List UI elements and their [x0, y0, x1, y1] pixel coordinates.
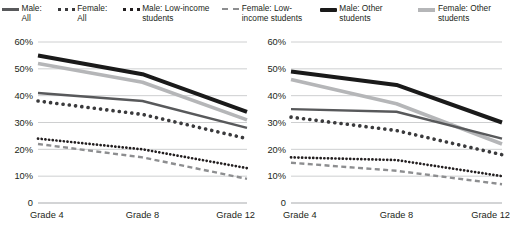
right-chart-svg: 010%20%30%40%50%60%Grade 4Grade 8Grade 1…: [255, 28, 510, 229]
legend-label: Female: Other students: [438, 3, 510, 23]
legend-item-male-low-income: Male: Low-income students: [123, 0, 215, 23]
y-axis-tick-label: 20%: [14, 145, 33, 155]
line-swatch-icon: [123, 5, 140, 15]
line-swatch-icon: [222, 5, 239, 15]
y-axis-tick-label: 40%: [14, 91, 33, 101]
left-line-chart: 010%20%30%40%50%60%Grade 4Grade 8Grade 1…: [0, 28, 255, 229]
y-axis-tick-label: 0: [281, 198, 286, 208]
series-line: [38, 63, 247, 119]
legend-item-male-all: Male: All: [2, 0, 50, 23]
y-axis-tick-label: 10%: [14, 171, 33, 181]
y-axis-tick-label: 50%: [14, 64, 33, 74]
y-axis-tick-label: 10%: [267, 171, 286, 181]
line-swatch-icon: [2, 5, 19, 15]
y-axis-tick-label: 20%: [267, 145, 286, 155]
legend-label: Female: All: [77, 3, 114, 23]
x-axis-tick-label: Grade 8: [126, 210, 160, 220]
legend-label: Male: Other students: [339, 3, 410, 23]
x-axis-tick-label: Grade 8: [380, 210, 414, 220]
legend-item-female-low-income: Female: Low-income students: [222, 0, 314, 23]
x-axis-tick-label: Grade 4: [30, 210, 64, 220]
y-axis-tick-label: 0: [28, 198, 33, 208]
legend-label: Female: Low-income students: [242, 3, 314, 23]
y-axis-tick-label: 30%: [14, 118, 33, 128]
y-axis-tick-label: 30%: [267, 118, 286, 128]
x-axis-tick-label: Grade 12: [216, 210, 255, 220]
series-line: [291, 163, 502, 184]
series-line: [291, 157, 502, 176]
y-axis-tick-label: 60%: [267, 37, 286, 47]
series-line: [291, 72, 502, 123]
legend-item-female-all: Female: All: [58, 0, 115, 23]
series-line: [291, 109, 502, 139]
line-swatch-icon: [58, 5, 75, 15]
x-axis-tick-label: Grade 4: [283, 210, 317, 220]
y-axis-tick-label: 50%: [267, 64, 286, 74]
charts-container: 010%20%30%40%50%60%Grade 4Grade 8Grade 1…: [0, 28, 510, 229]
x-axis-tick-label: Grade 12: [471, 210, 510, 220]
series-line: [38, 139, 247, 169]
legend-item-female-other: Female: Other students: [418, 0, 510, 23]
left-chart-svg: 010%20%30%40%50%60%Grade 4Grade 8Grade 1…: [0, 28, 255, 229]
y-axis-tick-label: 40%: [267, 91, 286, 101]
chart-page: Male: All Female: All Male: Low-income s…: [0, 0, 510, 229]
right-line-chart: 010%20%30%40%50%60%Grade 4Grade 8Grade 1…: [255, 28, 510, 229]
line-swatch-icon: [418, 5, 435, 15]
legend-label: Male: All: [22, 3, 50, 23]
chart-legend: Male: All Female: All Male: Low-income s…: [0, 0, 510, 30]
y-axis-tick-label: 60%: [14, 37, 33, 47]
line-swatch-icon: [320, 5, 337, 15]
legend-label: Male: Low-income students: [142, 3, 214, 23]
legend-item-male-other: Male: Other students: [320, 0, 411, 23]
